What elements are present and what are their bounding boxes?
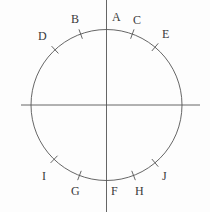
- point-label-e: E: [162, 28, 169, 40]
- circle-diagram-figure: ABCDEFGHIJ: [0, 0, 210, 212]
- point-label-d: D: [38, 30, 47, 42]
- point-label-h: H: [135, 185, 144, 197]
- point-label-i: I: [42, 170, 46, 182]
- diagram-canvas: [0, 0, 210, 212]
- point-label-f: F: [111, 185, 118, 197]
- tick-mark-e: [152, 43, 158, 51]
- point-label-b: B: [71, 13, 79, 25]
- point-label-c: C: [133, 14, 141, 26]
- point-label-j: J: [162, 170, 167, 182]
- point-label-a: A: [112, 11, 121, 23]
- point-label-g: G: [71, 185, 80, 197]
- tick-mark-j: [152, 159, 158, 167]
